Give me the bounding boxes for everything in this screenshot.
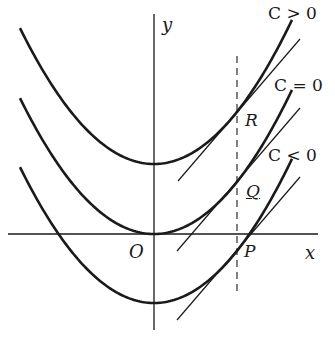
curve-label-c-zero: C = 0 xyxy=(274,77,323,94)
origin-label: O xyxy=(129,243,144,261)
point-label-r: R xyxy=(245,112,258,129)
diagram-canvas xyxy=(0,0,335,337)
tangent-line-c-negative xyxy=(177,177,300,320)
curve-label-c-negative: C < 0 xyxy=(268,147,317,164)
curve-label-c-positive: C > 0 xyxy=(268,5,317,22)
diagram-family-of-parabolas: y x O C > 0 C = 0 C < 0 R Q P xyxy=(0,0,335,337)
point-label-q: Q xyxy=(246,183,260,200)
y-axis-label: y xyxy=(162,16,172,34)
x-axis-label: x xyxy=(305,244,315,262)
point-label-p: P xyxy=(244,243,255,260)
curve-c-positive xyxy=(20,20,292,164)
